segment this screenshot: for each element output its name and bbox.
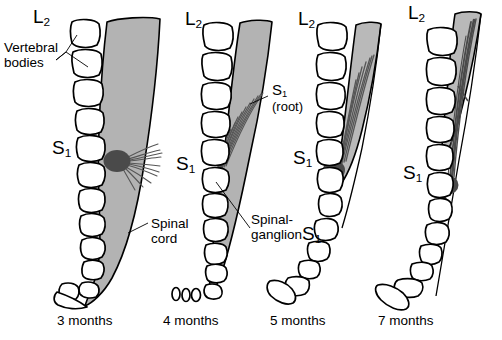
- segment-label-L2-p3: L2: [298, 9, 315, 30]
- spinal-ganglion-label-line2: ganglion: [251, 228, 302, 243]
- segment-label-L2-p2: L2: [185, 9, 202, 30]
- segment-label-S1-p2: S1: [176, 154, 195, 175]
- segment-label-S1-p1: S1: [52, 138, 71, 159]
- panel-3-months-graphic: [54, 18, 162, 309]
- vertebral-bodies-label-line2: bodies: [4, 56, 58, 71]
- segment-label-S1-p3: S1: [293, 148, 312, 169]
- vertebral-bodies-p1: [54, 20, 105, 309]
- s1-root-paren: (root): [272, 100, 303, 114]
- vertebral-bodies-label-line1: Vertebral: [4, 41, 58, 56]
- caption-4-months: 4 months: [163, 314, 219, 329]
- segment-label-S1-p4: S1: [403, 163, 422, 184]
- segment-label-L2-p4: L2: [408, 3, 425, 24]
- spinal-cord-label: Spinal cord: [151, 217, 189, 246]
- panel-7-months-graphic: [376, 12, 481, 310]
- segment-label-S1-lower-p3: S1: [302, 224, 321, 245]
- spinal-cord-label-line1: Spinal: [151, 217, 189, 232]
- vertebral-bodies-label: Vertebral bodies: [4, 41, 58, 70]
- spinal-cord-development-figure: L2 Vertebral bodies S1 Spinal cord 3 mon…: [0, 0, 502, 340]
- spinal-ganglion-label: Spinal- ganglion: [251, 213, 302, 242]
- s1-root-label: S1 (root): [272, 82, 303, 114]
- segment-label-L2-p1: L2: [33, 7, 50, 28]
- spinal-ganglion-p1: [104, 150, 131, 172]
- caption-3-months: 3 months: [57, 314, 113, 329]
- panel-5-months-graphic: [267, 22, 381, 304]
- caption-5-months: 5 months: [270, 314, 326, 329]
- spinal-ganglion-label-line1: Spinal-: [251, 213, 302, 228]
- spinal-cord-label-line2: cord: [151, 232, 189, 247]
- anatomy-illustration: [0, 0, 502, 340]
- caption-7-months: 7 months: [378, 314, 434, 329]
